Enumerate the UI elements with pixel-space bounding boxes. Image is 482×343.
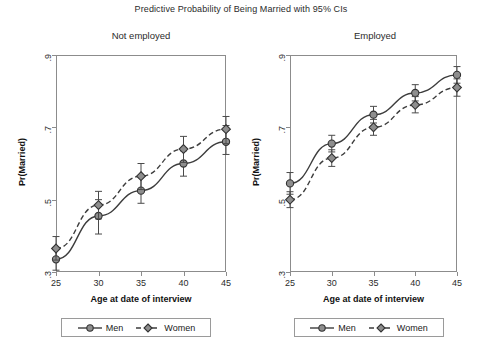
panel-employed: Employed.3.5.7.92530354045Pr(Married)Age…	[0, 0, 482, 343]
x-tick-label: 30	[317, 278, 347, 288]
legend-marker-circle	[319, 324, 325, 330]
x-tick-mark	[374, 272, 375, 276]
x-tick-mark	[457, 272, 458, 276]
y-tick-label: .9	[277, 54, 287, 70]
legend-swatch-women	[368, 322, 394, 334]
x-tick-label: 25	[275, 278, 305, 288]
y-tick-label: .7	[277, 126, 287, 142]
legend-label: Women	[397, 323, 428, 333]
legend-entry-women[interactable]: Women	[362, 322, 434, 334]
legend-employed: MenWomen	[294, 318, 444, 337]
x-tick-label: 45	[442, 278, 472, 288]
chart-root: Predictive Probability of Being Married …	[0, 0, 482, 343]
y-axis-label-employed: Pr(Married)	[251, 122, 261, 202]
y-tick-label: .5	[277, 199, 287, 215]
x-axis-label-employed: Age at date of interview	[270, 294, 477, 304]
x-tick-mark	[290, 272, 291, 276]
legend-entry-men[interactable]: Men	[303, 322, 362, 334]
x-tick-label: 35	[359, 278, 389, 288]
x-tick-mark	[415, 272, 416, 276]
legend-label: Men	[338, 323, 356, 333]
legend-marker-diamond	[377, 324, 385, 332]
plot-frame-employed	[290, 55, 457, 272]
panel-title-employed: Employed	[244, 30, 482, 41]
x-tick-mark	[332, 272, 333, 276]
legend-swatch-men	[309, 322, 335, 334]
x-tick-label: 40	[400, 278, 430, 288]
